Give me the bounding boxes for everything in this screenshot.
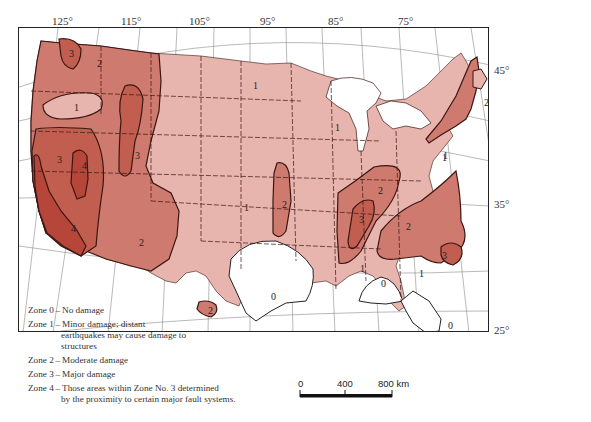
seismic-map: 3 2 1 3 4 4 3 2 2 0 0 0 1 1 1 2 2 3 2 3 … (19, 28, 489, 332)
zone-label: 2 (139, 237, 144, 248)
zone-label: 1 (360, 263, 365, 274)
zone-label: 0 (448, 320, 453, 331)
zone-label: 4 (82, 160, 87, 171)
zone0-florida (401, 291, 441, 332)
zone-label: 1 (335, 122, 340, 133)
scale-label-400: 400 (337, 378, 353, 389)
zone-label: 3 (359, 214, 364, 225)
zone-label: 4 (71, 223, 76, 234)
legend-zone-1: Zone 1 – Minor damage; distantearthquake… (28, 319, 236, 352)
zone-label: 3 (442, 250, 447, 261)
zone-label: 2 (484, 97, 489, 108)
zone-label: 1 (74, 102, 79, 113)
lon-label-85: 85° (328, 15, 343, 27)
zone1-maine (473, 69, 487, 89)
map-frame: 3 2 1 3 4 4 3 2 2 0 0 0 1 1 1 2 2 3 2 3 … (18, 27, 489, 332)
zone-label: 3 (69, 48, 74, 59)
zone-label: 2 (97, 58, 102, 69)
lon-label-105: 105° (189, 15, 210, 27)
zone-label: 2 (406, 221, 411, 232)
legend-zone-4: Zone 4 – Those areas within Zone No. 3 d… (28, 383, 236, 405)
zone-label: 1 (419, 268, 424, 279)
zone-label: 0 (381, 278, 386, 289)
lon-label-75: 75° (398, 15, 413, 27)
zone-label: 3 (57, 154, 62, 165)
top-caption-cutoff (0, 0, 591, 8)
lat-label-25: 25° (494, 324, 509, 336)
lat-label-35: 35° (494, 198, 509, 210)
scale-label-0: 0 (298, 378, 303, 389)
zone-label: 1 (442, 152, 447, 163)
scale-bar (295, 390, 405, 402)
legend-zone-0: Zone 0 – No damage (28, 305, 236, 316)
lat-label-45: 45° (494, 64, 509, 76)
zone-label: 3 (135, 150, 140, 161)
scale-label-800: 800 km (378, 378, 409, 389)
legend-zone-2: Zone 2 – Moderate damage (28, 355, 236, 366)
zone-label: 1 (244, 202, 249, 213)
legend-zone-3: Zone 3 – Major damage (28, 369, 236, 380)
lon-label-95: 95° (260, 15, 275, 27)
zone-label: 1 (253, 80, 258, 91)
lon-label-115: 115° (121, 15, 142, 27)
map-legend: Zone 0 – No damage Zone 1 – Minor damage… (28, 305, 236, 408)
zone-label: 2 (282, 199, 287, 210)
zone-label: 0 (271, 291, 276, 302)
lon-label-125: 125° (52, 15, 73, 27)
zone-label: 2 (378, 185, 383, 196)
